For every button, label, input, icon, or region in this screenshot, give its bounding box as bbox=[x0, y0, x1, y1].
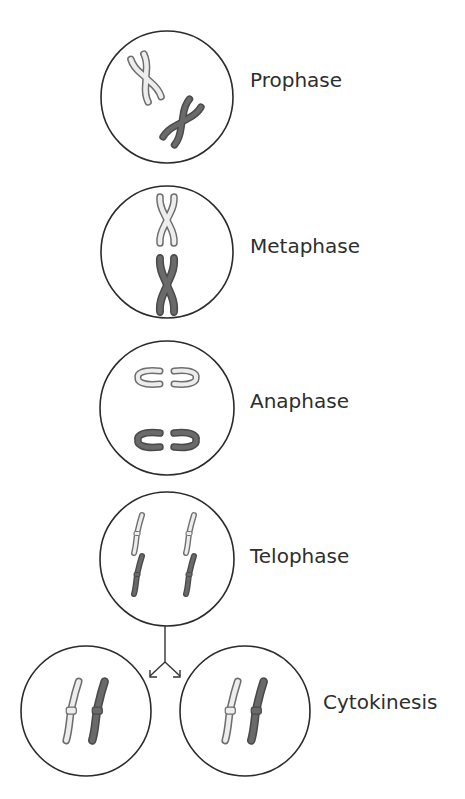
label-cytokinesis: Cytokinesis bbox=[323, 690, 437, 714]
stage-prophase: Prophase bbox=[101, 31, 342, 163]
label-anaphase: Anaphase bbox=[250, 389, 349, 413]
label-telophase: Telophase bbox=[249, 544, 349, 568]
metaphase-cell bbox=[101, 186, 233, 318]
daughter-cell-right bbox=[180, 646, 310, 776]
mitosis-diagram: Prophase Metaphase Anaphase bbox=[0, 0, 465, 799]
daughter-cell-left bbox=[21, 646, 151, 776]
prophase-cell bbox=[101, 31, 233, 163]
cytokinesis-cell-left bbox=[21, 646, 151, 776]
label-prophase: Prophase bbox=[250, 68, 342, 92]
telophase-cell bbox=[100, 492, 234, 626]
cytokinesis-cell-right bbox=[180, 646, 310, 776]
stage-telophase: Telophase bbox=[100, 492, 349, 626]
stage-anaphase: Anaphase bbox=[100, 341, 349, 475]
anaphase-cell bbox=[100, 341, 234, 475]
label-metaphase: Metaphase bbox=[250, 234, 360, 258]
split-arrow bbox=[150, 626, 180, 677]
stage-cytokinesis: Cytokinesis bbox=[21, 646, 437, 776]
stage-metaphase: Metaphase bbox=[101, 186, 360, 318]
